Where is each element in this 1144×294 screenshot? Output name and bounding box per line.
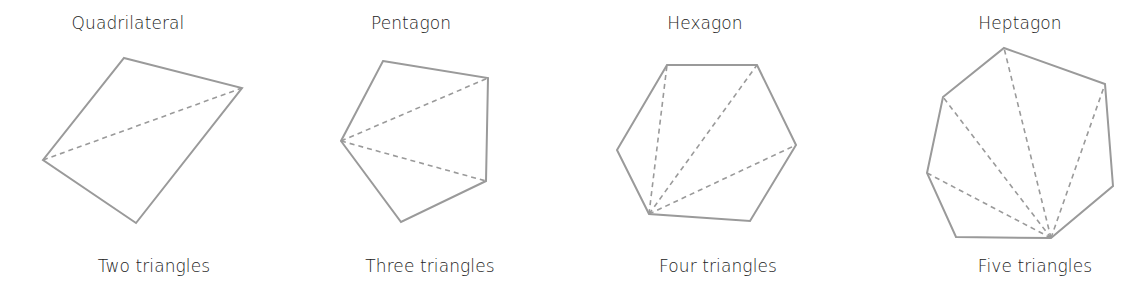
diagonal-line — [927, 173, 1051, 238]
quadrilateral-caption: Two triangles — [98, 256, 210, 276]
diagonal-line — [1004, 48, 1051, 238]
hexagon-caption: Four triangles — [659, 256, 777, 276]
pentagon-figure — [341, 61, 488, 222]
pentagon-caption: Three triangles — [365, 256, 494, 276]
pentagon-outline — [341, 61, 488, 222]
hexagon-outline — [617, 65, 796, 221]
heptagon-diagonals — [927, 48, 1105, 238]
diagonal-line — [649, 65, 757, 214]
pentagon-diagonals — [341, 78, 488, 181]
hexagon-figure — [617, 65, 796, 221]
heptagon-figure — [927, 48, 1113, 238]
pentagon-title: Pentagon — [371, 13, 451, 33]
polygon-triangulation-diagram — [0, 0, 1144, 294]
quadrilateral-figure — [43, 58, 242, 223]
heptagon-caption: Five triangles — [978, 256, 1092, 276]
diagonal-line — [341, 78, 488, 141]
diagonal-line — [341, 141, 486, 181]
hexagon-diagonals — [649, 65, 796, 214]
diagonal-line — [943, 97, 1051, 238]
heptagon-title: Heptagon — [978, 13, 1061, 33]
hexagon-title: Hexagon — [667, 13, 743, 33]
quadrilateral-outline — [43, 58, 242, 223]
quadrilateral-title: Quadrilateral — [72, 13, 185, 33]
